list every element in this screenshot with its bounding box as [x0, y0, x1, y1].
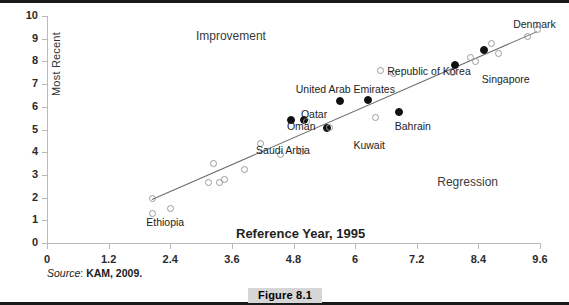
x-tick-label: 1.2 — [92, 254, 126, 265]
scatter-point — [205, 179, 212, 186]
scatter-point — [221, 176, 228, 183]
scatter-point-label: Qatar — [301, 108, 327, 120]
region-annotation: Regression — [437, 175, 498, 189]
source-note: Source: KAM, 2009. — [47, 267, 142, 279]
scatter-point — [488, 40, 495, 47]
source-label: Source — [47, 267, 80, 279]
x-tick-label: 8.4 — [461, 254, 495, 265]
scatter-point-label: Singapore — [482, 73, 530, 85]
y-tick-label: 2 — [16, 192, 38, 203]
x-tick-label: 0 — [30, 254, 64, 265]
scatter-point — [472, 58, 479, 65]
scatter-point-highlighted — [480, 46, 488, 54]
x-tick-label: 6 — [338, 254, 372, 265]
y-tick-label: 6 — [16, 101, 38, 112]
x-tick-label: 7.2 — [400, 254, 434, 265]
x-tick-mark — [47, 244, 48, 249]
scatter-point — [241, 166, 248, 173]
scatter-point-highlighted — [395, 108, 403, 116]
plot-area: ImprovementRegression OmanQatarUnited Ar… — [47, 16, 540, 243]
x-tick-mark — [355, 244, 356, 249]
y-tick-label: 1 — [16, 214, 38, 225]
x-tick-label: 9.6 — [523, 254, 557, 265]
y-tick-label: 7 — [16, 78, 38, 89]
x-tick-mark — [232, 244, 233, 249]
scatter-point — [372, 114, 379, 121]
scatter-point-label: Saudi Arbia — [256, 144, 310, 156]
x-tick-mark — [540, 244, 541, 249]
x-tick-label: 3.6 — [215, 254, 249, 265]
scatter-point-label: Republic of Korea — [387, 65, 470, 77]
x-tick-mark — [109, 244, 110, 249]
y-tick-label: 0 — [16, 237, 38, 248]
y-tick-label: 10 — [16, 10, 38, 21]
figure-caption: Figure 8.1 — [248, 288, 322, 303]
y-tick-label: 3 — [16, 169, 38, 180]
scatter-point — [495, 50, 502, 57]
source-reference: KAM, 2009. — [86, 267, 142, 279]
scatter-point-label: Kuwait — [353, 139, 385, 151]
figure-8-1: 01234567891001.22.43.64.867.28.49.6 Most… — [0, 0, 569, 305]
y-tick-label: 4 — [16, 146, 38, 157]
scatter-point-label: Denmark — [513, 18, 556, 30]
scatter-point-highlighted — [364, 96, 372, 104]
scatter-point-label: Ethiopia — [146, 216, 184, 228]
scatter-point-highlighted — [336, 97, 344, 105]
y-tick-label: 8 — [16, 55, 38, 66]
scatter-point — [210, 160, 217, 167]
x-tick-mark — [294, 244, 295, 249]
y-tick-label: 5 — [16, 124, 38, 135]
x-tick-label: 4.8 — [277, 254, 311, 265]
y-tick-label: 9 — [16, 33, 38, 44]
scatter-point — [524, 33, 531, 40]
x-tick-label: 2.4 — [153, 254, 187, 265]
scatter-point-label: Bahrain — [395, 120, 431, 132]
scatter-point-label: United Arab Emirates — [296, 83, 395, 95]
x-tick-mark — [170, 244, 171, 249]
scatter-point — [377, 67, 384, 74]
x-tick-mark — [417, 244, 418, 249]
scatter-point-label: Oman — [287, 120, 316, 132]
region-annotation: Improvement — [196, 29, 266, 43]
scatter-point — [149, 195, 156, 202]
scatter-point — [326, 124, 333, 131]
x-tick-mark — [478, 244, 479, 249]
scatter-point — [167, 205, 174, 212]
